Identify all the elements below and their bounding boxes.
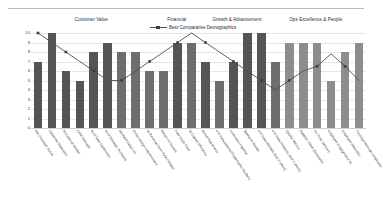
y-tick-9: 9	[28, 40, 30, 44]
line-path	[38, 33, 359, 90]
legend-line-marker-icon	[150, 25, 167, 30]
y-tick-3: 3	[28, 97, 30, 101]
group-header-3: Ops Excellence & People	[289, 17, 342, 22]
line-series	[31, 33, 366, 128]
chart-legend: Best Comparative Demographics	[150, 25, 236, 30]
x-label-3: CRM Strength	[76, 129, 92, 150]
line-marker-6	[120, 79, 123, 82]
y-tick-0: 0	[28, 126, 30, 130]
y-tick-1: 1	[28, 116, 30, 120]
group-header-2: Growth & Advancement	[212, 17, 261, 22]
line-marker-2	[65, 51, 68, 54]
line-marker-20	[316, 65, 319, 68]
x-label-7: Gross Margin Improvement	[131, 129, 158, 166]
y-tick-8: 8	[28, 50, 30, 54]
y-tick-6: 6	[28, 69, 30, 73]
line-marker-14	[232, 60, 235, 63]
line-marker-8	[148, 60, 151, 63]
x-label-19: Supplier Value (Structure)	[299, 129, 325, 164]
y-axis-tick-labels: 012345678910	[22, 33, 30, 128]
line-marker-18	[288, 79, 291, 82]
y-tick-7: 7	[28, 59, 30, 63]
line-marker-16	[260, 79, 263, 82]
y-tick-10: 10	[25, 31, 30, 35]
group-header-0: Customer Value	[75, 17, 108, 22]
top-divider	[8, 8, 364, 9]
x-label-23: Training hours per employee	[355, 129, 383, 168]
line-marker-10	[176, 41, 179, 44]
y-tick-5: 5	[28, 78, 30, 82]
line-marker-22	[344, 65, 347, 68]
y-tick-4: 4	[28, 88, 30, 92]
x-label-8: % Revenue from New Product	[145, 129, 175, 170]
line-marker-4	[93, 70, 96, 73]
x-label-17: # of New Products (last 3 years)	[271, 129, 302, 173]
line-marker-12	[204, 41, 207, 44]
group-header-1: Financial	[167, 17, 186, 22]
legend-label: Best Comparative Demographics	[169, 25, 236, 30]
y-tick-2: 2	[28, 107, 30, 111]
x-axis-tick-labels: Net Promoter ScoreCustomer Retention% Ex…	[31, 129, 366, 203]
line-marker-0	[37, 32, 40, 35]
x-label-21: Employee Engagement %	[327, 129, 353, 165]
plot-area	[31, 33, 366, 128]
